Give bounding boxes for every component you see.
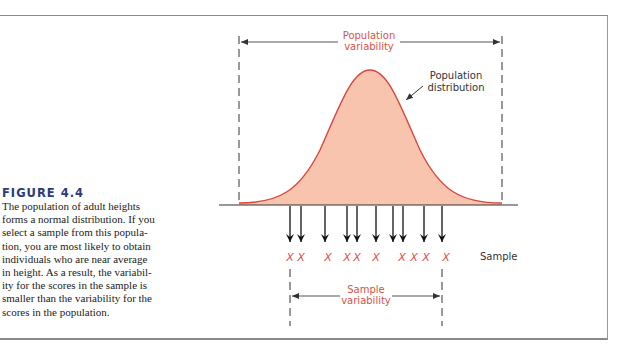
sample-label: Sample: [480, 251, 518, 262]
population-variability-label-2: variability: [344, 41, 394, 52]
svg-text:X: X: [342, 251, 351, 264]
sample-markers: X X X X X X X X X X: [285, 251, 450, 264]
svg-text:X: X: [323, 251, 332, 264]
sample-variability-label-2: variability: [341, 295, 391, 306]
population-distribution-label-2: distribution: [428, 82, 485, 93]
variability-diagram: Population variability Population distri…: [0, 0, 635, 344]
sample-arrows: [290, 206, 442, 242]
population-variability-label-1: Population: [343, 30, 396, 41]
svg-text:X: X: [296, 251, 305, 264]
population-distribution-label-1: Population: [430, 70, 483, 81]
sample-variability-label-1: Sample: [347, 284, 385, 295]
svg-text:X: X: [409, 251, 418, 264]
svg-text:X: X: [397, 251, 406, 264]
distribution-pointer-arrow: [406, 86, 423, 100]
svg-text:X: X: [352, 251, 361, 264]
svg-text:X: X: [421, 251, 430, 264]
svg-text:X: X: [285, 251, 294, 264]
svg-text:X: X: [371, 251, 380, 264]
svg-text:X: X: [441, 251, 450, 264]
